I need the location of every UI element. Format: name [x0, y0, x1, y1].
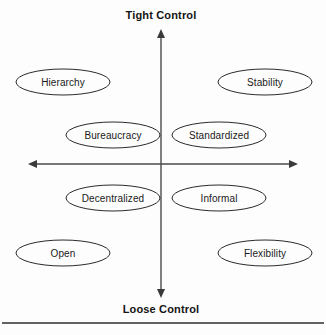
- diagram-canvas: Hierarchy Stability Bureaucracy Standard…: [0, 0, 326, 335]
- node-standardized-label: Standardized: [189, 130, 249, 141]
- node-informal[interactable]: Informal: [172, 185, 266, 211]
- horizontal-axis: [28, 160, 298, 168]
- node-flexibility-label: Flexibility: [244, 248, 286, 259]
- node-decentralized-label: Decentralized: [82, 193, 144, 204]
- node-informal-label: Informal: [201, 193, 238, 204]
- vertical-axis-down-arrow-icon: [157, 289, 165, 298]
- node-open-label: Open: [51, 248, 76, 259]
- node-hierarchy[interactable]: Hierarchy: [16, 69, 110, 95]
- node-hierarchy-label: Hierarchy: [41, 77, 85, 88]
- node-open[interactable]: Open: [16, 240, 110, 266]
- node-standardized[interactable]: Standardized: [172, 122, 266, 148]
- node-stability-label: Stability: [247, 77, 283, 88]
- horizontal-axis-left-arrow-icon: [28, 160, 37, 168]
- node-flexibility[interactable]: Flexibility: [218, 240, 312, 266]
- tight-control-label: Tight Control: [126, 9, 197, 21]
- node-bureaucracy-label: Bureaucracy: [84, 130, 141, 141]
- node-bureaucracy[interactable]: Bureaucracy: [66, 122, 160, 148]
- node-decentralized[interactable]: Decentralized: [66, 185, 160, 211]
- node-stability[interactable]: Stability: [218, 69, 312, 95]
- vertical-axis-up-arrow-icon: [157, 29, 165, 38]
- quadrant-diagram: Hierarchy Stability Bureaucracy Standard…: [0, 0, 326, 335]
- loose-control-label: Loose Control: [123, 303, 200, 315]
- horizontal-axis-right-arrow-icon: [289, 160, 298, 168]
